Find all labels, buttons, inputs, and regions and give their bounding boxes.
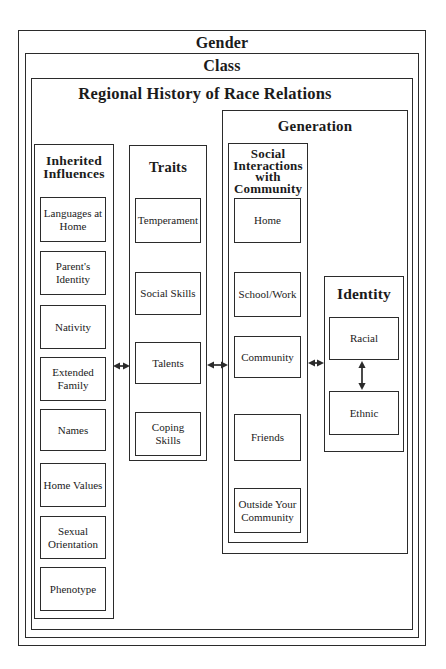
social-skills-box: Social Skills — [135, 272, 201, 315]
school-work-box: School/Work — [234, 272, 301, 317]
languages-at-home-box: Languages at Home — [40, 197, 106, 242]
talents-box: Talents — [135, 342, 201, 384]
traits-title: Traits — [130, 146, 206, 176]
ethnic-box: Ethnic — [329, 391, 399, 435]
friends-box: Friends — [234, 414, 301, 461]
parents-identity-box: Parent's Identity — [40, 251, 106, 295]
outside-your-community-box: Outside Your Community — [234, 488, 301, 533]
sexual-orientation-box: Sexual Orientation — [40, 516, 106, 559]
inherited-influences-column: Inherited Influences Languages at Home P… — [34, 144, 114, 619]
class-label: Class — [26, 54, 418, 75]
diagram-page: Gender Class Regional History of Race Re… — [0, 0, 446, 669]
regional-history-label: Regional History of Race Relations — [32, 79, 412, 104]
generation-label: Generation — [223, 111, 407, 135]
community-box: Community — [234, 336, 301, 378]
class-box: Class Regional History of Race Relations… — [25, 53, 419, 638]
identity-title: Identity — [325, 277, 403, 303]
regional-history-box: Regional History of Race Relations Inher… — [31, 78, 413, 630]
inherited-influences-title: Inherited Influences — [35, 145, 113, 180]
identity-box: Identity Racial Ethnic — [324, 276, 404, 452]
nativity-box: Nativity — [40, 305, 106, 349]
names-box: Names — [40, 409, 106, 451]
home-values-box: Home Values — [40, 463, 106, 507]
extended-family-box: Extended Family — [40, 357, 106, 401]
gender-label: Gender — [19, 31, 425, 52]
coping-skills-box: Coping Skills — [135, 412, 201, 456]
racial-box: Racial — [329, 317, 399, 360]
gender-box: Gender Class Regional History of Race Re… — [18, 30, 426, 646]
social-interactions-title: Social Interactions with Community — [229, 144, 307, 194]
phenotype-box: Phenotype — [40, 567, 106, 611]
home-box: Home — [234, 198, 301, 243]
traits-column: Traits Temperament Social Skills Talents… — [129, 145, 207, 461]
temperament-box: Temperament — [135, 198, 201, 243]
social-interactions-column: Social Interactions with Community Home … — [228, 143, 308, 543]
